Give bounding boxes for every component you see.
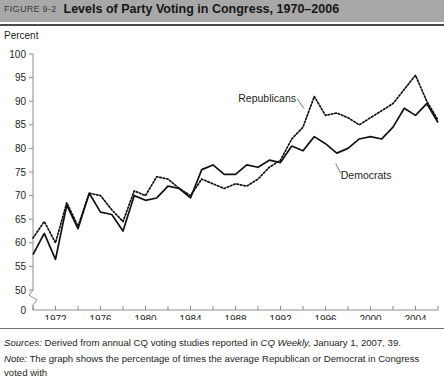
- x-axis-tick-label: 2000: [359, 314, 382, 320]
- series-label-republicans: Republicans: [238, 92, 296, 104]
- sources-label: Sources:: [4, 337, 42, 348]
- x-axis-tick-label: 2004: [404, 314, 427, 320]
- x-axis-tick-label: 1988: [224, 314, 247, 320]
- y-axis-tick-label: 60: [15, 237, 27, 248]
- figure-header-bar: FIGURE 9-2 Levels of Party Voting in Con…: [0, 0, 444, 22]
- leader-line-republicans: [297, 99, 304, 109]
- figure-title: Levels of Party Voting in Congress, 1970…: [64, 2, 340, 16]
- x-axis-tick-label: 1976: [89, 314, 112, 320]
- y-axis-tick-label: 95: [15, 72, 27, 83]
- y-axis-tick-label: 65: [15, 214, 27, 225]
- figure-number: FIGURE 9-2: [4, 4, 57, 14]
- chart-area: Percent 50556065707580859095100019721976…: [0, 28, 444, 320]
- y-axis-tick-label: 55: [15, 261, 27, 272]
- x-axis-tick-label: 1984: [179, 314, 202, 320]
- note-line: Note: The graph shows the percentage of …: [4, 352, 440, 380]
- series-line-democrats: [33, 104, 438, 260]
- footer-divider: [0, 328, 444, 329]
- y-axis-zero-label: 0: [20, 305, 26, 316]
- y-axis-tick-label: 100: [9, 49, 26, 60]
- note-text: The graph shows the percentage of times …: [4, 353, 419, 378]
- note-label: Note:: [4, 353, 27, 364]
- sources-text-a: Derived from annual CQ voting studies re…: [42, 337, 261, 348]
- y-axis-tick-label: 75: [15, 167, 27, 178]
- y-axis-tick-label: 90: [15, 96, 27, 107]
- x-axis-tick-label: 1980: [134, 314, 157, 320]
- sources-citation: CQ Weekly,: [261, 337, 311, 348]
- y-axis-tick-label: 85: [15, 119, 27, 130]
- sources-line: Sources: Derived from annual CQ voting s…: [4, 336, 440, 350]
- header-divider: [0, 24, 444, 26]
- line-chart: 5055606570758085909510001972197619801984…: [0, 28, 444, 320]
- x-axis-tick-label: 1996: [314, 314, 337, 320]
- y-axis-tick-label: 80: [15, 143, 27, 154]
- y-axis-tick-label: 70: [15, 190, 27, 201]
- sources-text-b: January 1, 2007, 39.: [311, 337, 401, 348]
- x-axis-tick-label: 1992: [269, 314, 292, 320]
- series-line-republicans: [33, 75, 438, 243]
- x-axis-tick-label: 1972: [44, 314, 67, 320]
- y-axis-tick-label: 50: [15, 285, 27, 296]
- series-label-democrats: Democrats: [341, 169, 392, 181]
